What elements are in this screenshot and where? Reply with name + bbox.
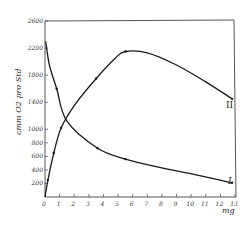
y-tick-label: 200 [31,179,44,186]
curve-label-I: I [227,176,232,186]
x-tick-label: 8 [159,200,163,207]
x-tick-label: 9 [174,200,178,207]
y-tick-label: 800 [32,139,44,146]
x-tick-label: 1 [57,200,61,207]
x-tick-label: 10 [186,200,194,207]
data-point-II [60,127,62,129]
data-point-II [47,179,49,181]
plot-frame [45,20,236,197]
y-axis-label: cmm O2 pro Std [14,68,23,135]
x-tick-label: 3 [86,200,90,207]
y-tick-label: 2200 [27,44,43,51]
x-tick-label: 2 [70,200,75,207]
data-point-I [96,147,98,149]
plot-border [45,20,236,197]
data-point-II [124,50,126,52]
x-tick-label: 4 [100,200,105,207]
x-tick-label: 6 [130,200,134,207]
y-tick-label: 2600 [27,17,43,24]
x-tick-label: 0 [42,200,46,207]
curve-label-II: II [226,100,234,110]
data-point-I [124,158,126,160]
series-line-II [45,51,232,197]
series-group [45,41,233,197]
x-axis-label: mg [222,206,235,215]
y-tick-label: 600 [32,152,44,159]
data-point-II [95,77,97,79]
chart: 20040060080010001400180022002600 0123456… [0,0,251,225]
data-point-I [55,87,57,89]
x-tick-label: 11 [201,200,209,207]
y-tick-label: 1400 [28,98,43,105]
data-point-II [53,152,55,154]
y-tick-label: 1800 [28,71,43,78]
y-tick-label: 400 [31,166,44,173]
series-line-I [46,41,232,182]
x-axis-ticks: 012345678910111213 [42,194,238,207]
y-tick-label: 1000 [28,125,43,132]
x-tick-label: 7 [144,200,148,207]
x-tick-label: 5 [115,200,119,207]
